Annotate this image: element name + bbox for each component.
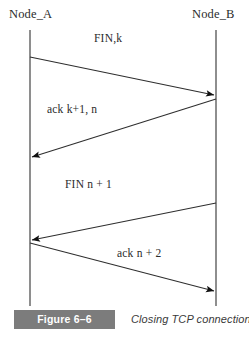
figure-caption-row: Figure 6–6 Closing TCP connections.	[0, 310, 249, 334]
sequence-diagram-canvas	[0, 0, 249, 344]
figure-container: Node_A Node_B FIN,k ack k+1, n FIN n + 1…	[0, 0, 249, 344]
message-label-fin-n1: FIN n + 1	[65, 179, 112, 191]
message-arrow-2	[32, 203, 216, 240]
figure-number-badge: Figure 6–6	[14, 310, 115, 329]
figure-caption-text: Closing TCP connections.	[131, 312, 249, 326]
message-label-fin-k: FIN,k	[94, 33, 122, 45]
message-label-ack-n2: ack n + 2	[117, 248, 161, 260]
message-arrow-0	[30, 57, 214, 95]
figure-number-text: Figure 6–6	[37, 314, 92, 325]
message-label-ack-k1-n: ack k+1, n	[47, 104, 97, 116]
lifelines-group	[30, 30, 216, 306]
